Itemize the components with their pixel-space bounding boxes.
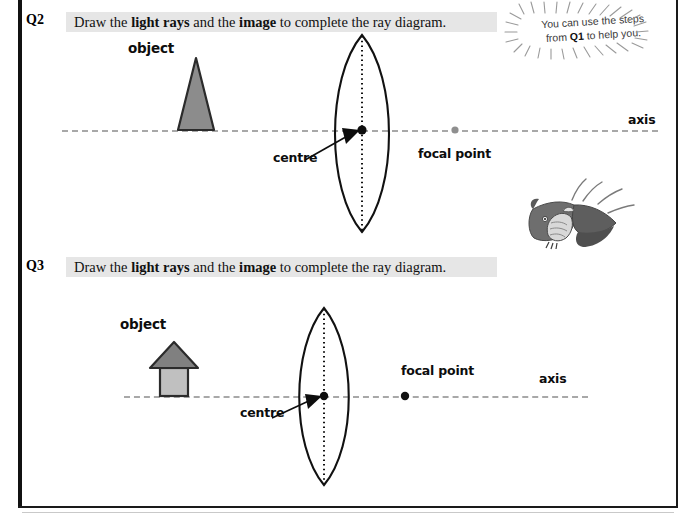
- focal-point-label-q2: focal point: [418, 146, 491, 161]
- axis-label-q3: axis: [539, 371, 566, 386]
- centre-label-q3: centre: [240, 405, 284, 420]
- object-house-arrow-q3: [150, 342, 198, 396]
- question-text-q3: Draw the light rays and the image to com…: [74, 259, 446, 276]
- optical-axis-q2: [62, 130, 658, 132]
- q2-text-seg-1: Draw the: [74, 14, 131, 30]
- flying-bat-cartoon-icon: [529, 179, 634, 249]
- page-border-left: [18, 0, 22, 508]
- question-text-band-q2: Draw the light rays and the image to com…: [66, 12, 497, 32]
- hint-line2-post: to help you.: [583, 26, 641, 41]
- q3-text-seg-4-bold: image: [239, 259, 276, 275]
- centre-label-q2: centre: [273, 150, 317, 165]
- question-number-q2: Q2: [26, 12, 44, 28]
- lens-q2: [335, 35, 389, 232]
- q3-text-seg-1: Draw the: [74, 259, 131, 275]
- question-text-q2: Draw the light rays and the image to com…: [74, 14, 446, 31]
- q2-text-seg-4-bold: image: [239, 14, 276, 30]
- hint-line2-pre: from: [546, 30, 571, 43]
- focal-point-label-q3: focal point: [401, 363, 474, 378]
- q3-text-seg-3: and the: [190, 259, 240, 275]
- q2-text-seg-5: to complete the ray diagram.: [276, 14, 446, 30]
- object-triangle-q2: [178, 58, 214, 130]
- optical-axis-q3: [124, 396, 588, 398]
- axis-label-q2: axis: [628, 112, 655, 127]
- question-text-band-q3: Draw the light rays and the image to com…: [66, 257, 497, 277]
- q2-text-seg-2-bold: light rays: [131, 14, 189, 30]
- q3-text-seg-5: to complete the ray diagram.: [276, 259, 446, 275]
- q2-text-seg-3: and the: [190, 14, 240, 30]
- page-border-bottom: [18, 506, 678, 508]
- hint-text: You can use the steps from Q1 to help yo…: [519, 10, 666, 47]
- worksheet-page: Q2 Draw the light rays and the image to …: [0, 0, 687, 521]
- q3-text-seg-2-bold: light rays: [131, 259, 189, 275]
- question-number-q3: Q3: [26, 258, 44, 274]
- object-label-q2: object: [128, 40, 174, 56]
- page-border-bottom-secondary: [22, 512, 674, 513]
- hint-bubble: You can use the steps from Q1 to help yo…: [508, 6, 674, 52]
- object-label-q3: object: [120, 316, 166, 332]
- hint-line2-bold: Q1: [569, 30, 584, 43]
- page-border-right: [676, 0, 678, 508]
